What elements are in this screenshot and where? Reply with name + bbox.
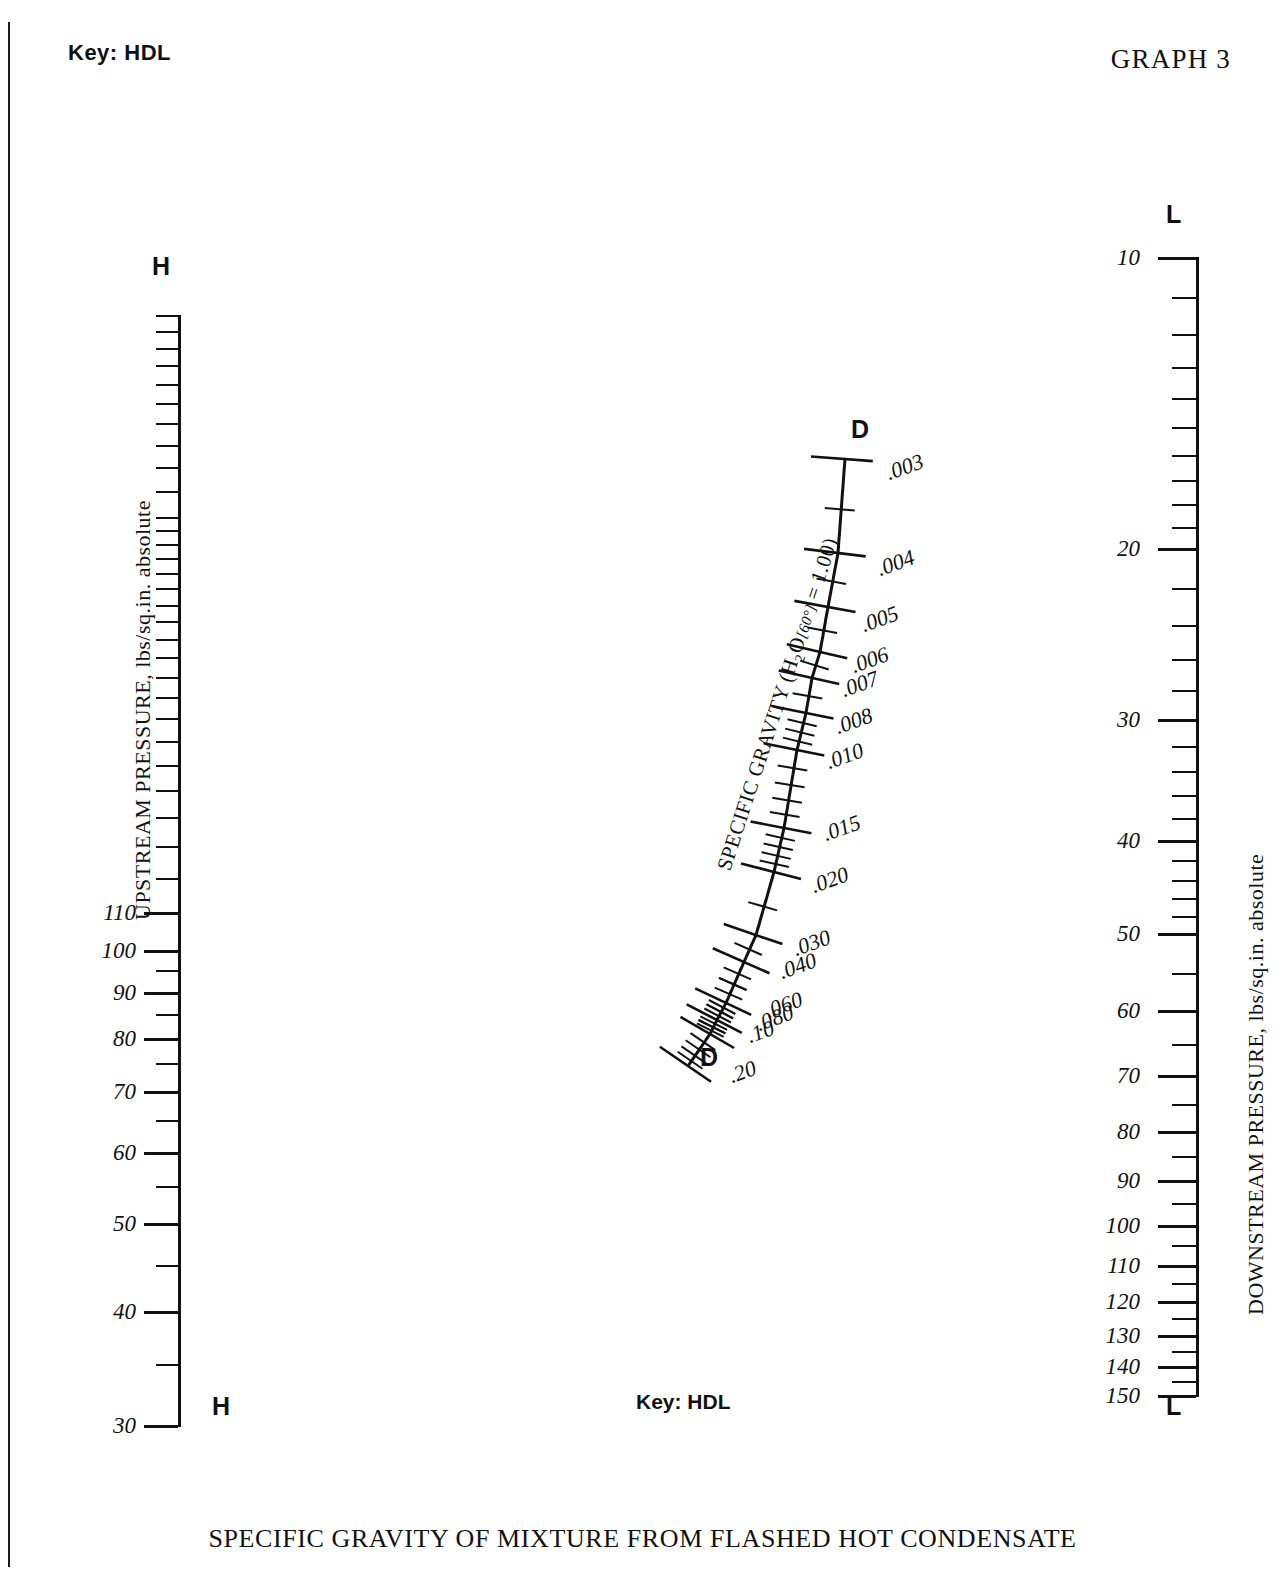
specific-gravity-scale: D D SPECIFIC GRAVITY (H2O[60°] = 1.00) .… [0, 0, 1285, 1595]
key-label-bottom: Key: HDL [636, 1390, 731, 1414]
sg-major-tick [741, 864, 801, 879]
chart-caption: SPECIFIC GRAVITY OF MIXTURE FROM FLASHED… [0, 1524, 1285, 1554]
sg-minor-tick [825, 508, 855, 510]
sg-endpoint-bottom: D [700, 1043, 718, 1072]
sg-major-tick [751, 822, 812, 834]
specific-gravity-line [0, 0, 1285, 1595]
sg-title-bracket: [60°] [793, 602, 819, 640]
sg-endpoint-top: D [851, 415, 869, 444]
sg-major-tick [811, 457, 873, 462]
nomograph-canvas: Key: HDL GRAPH 3 H H UPSTREAM PRESSURE, … [0, 0, 1285, 1595]
